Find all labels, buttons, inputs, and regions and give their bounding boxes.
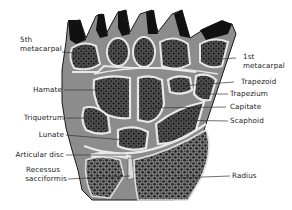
dark-tissue-left: [68, 20, 86, 44]
label-first-metacarpal: 1st metacarpal: [243, 53, 285, 70]
fifth-metacarpal-bone: [70, 43, 100, 69]
dark-tissue-4: [146, 10, 158, 34]
third-metacarpal-bone: [133, 37, 155, 67]
label-fifth-metacarpal: 5th metacarpal: [20, 36, 62, 53]
label-hamate: Hamate: [6, 86, 62, 95]
label-line: metacarpal: [20, 45, 62, 54]
fourth-metacarpal-bone: [107, 38, 129, 66]
lunate-bone: [118, 127, 148, 149]
label-triquetrum: Triquetrum: [4, 114, 64, 123]
label-lunate: Lunate: [4, 131, 64, 140]
trapezoid-bone: [168, 76, 192, 93]
label-trapezium: Trapezium: [230, 90, 268, 99]
capitate-bone: [138, 76, 164, 122]
label-scaphoid: Scaphoid: [230, 117, 264, 126]
label-recessus-sacciformis: Recessus sacciformis: [18, 166, 68, 183]
second-metacarpal-bone: [160, 38, 190, 68]
label-radius: Radius: [232, 172, 257, 181]
label-capitate: Capitate: [230, 103, 261, 112]
label-line: metacarpal: [243, 62, 285, 71]
label-line: sacciformis: [18, 175, 68, 184]
label-trapezoid: Trapezoid: [241, 78, 276, 87]
label-articular-disc: Articular disc: [0, 151, 64, 160]
